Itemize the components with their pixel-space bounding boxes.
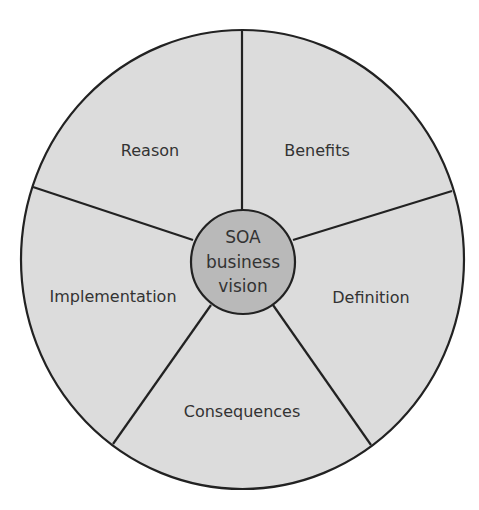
segment-label-reason: Reason (121, 141, 179, 160)
segment-label-definition: Definition (332, 288, 409, 307)
segment-label-benefits: Benefits (284, 141, 350, 160)
center-label-line-2: business (206, 252, 280, 272)
segment-label-consequences: Consequences (184, 402, 301, 421)
segment-label-implementation: Implementation (49, 287, 176, 306)
center-label-line-3: vision (218, 276, 268, 296)
center-label-line-1: SOA (225, 227, 261, 247)
soa-vision-diagram: Reason Benefits Definition Consequences … (0, 0, 479, 510)
